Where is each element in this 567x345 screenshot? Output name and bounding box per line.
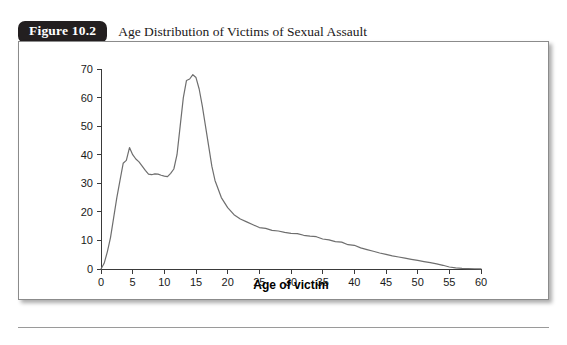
x-tick-label: 50 — [412, 276, 424, 288]
y-tick-label: 10 — [81, 234, 93, 246]
y-tick-label: 0 — [87, 263, 93, 275]
x-tick-label: 5 — [130, 276, 136, 288]
y-tick-label: 20 — [81, 206, 93, 218]
y-tick-label: 30 — [81, 177, 93, 189]
x-axis-title: Age of victim — [253, 278, 328, 292]
chart-svg: 010203040506070 051015202530354045505560… — [19, 42, 550, 301]
x-tick-label: 40 — [348, 276, 360, 288]
footer-divider — [18, 327, 549, 328]
x-tick-label: 60 — [475, 276, 487, 288]
x-tick-label: 20 — [222, 276, 234, 288]
line-chart: 010203040506070 051015202530354045505560… — [19, 42, 550, 301]
y-tick-label: 70 — [81, 63, 93, 75]
y-tick-label: 60 — [81, 92, 93, 104]
y-axis: 010203040506070 — [81, 63, 101, 275]
data-series-line — [101, 75, 481, 269]
x-tick-label: 55 — [443, 276, 455, 288]
figure-number-tab: Figure 10.2 — [18, 21, 107, 43]
y-tick-label: 50 — [81, 120, 93, 132]
x-tick-label: 0 — [98, 276, 104, 288]
x-tick-label: 10 — [158, 276, 170, 288]
x-tick-label: 15 — [190, 276, 202, 288]
y-tick-label: 40 — [81, 149, 93, 161]
figure-caption: Age Distribution of Victims of Sexual As… — [118, 24, 367, 40]
figure-panel: 010203040506070 051015202530354045505560… — [18, 41, 549, 300]
x-tick-label: 45 — [380, 276, 392, 288]
